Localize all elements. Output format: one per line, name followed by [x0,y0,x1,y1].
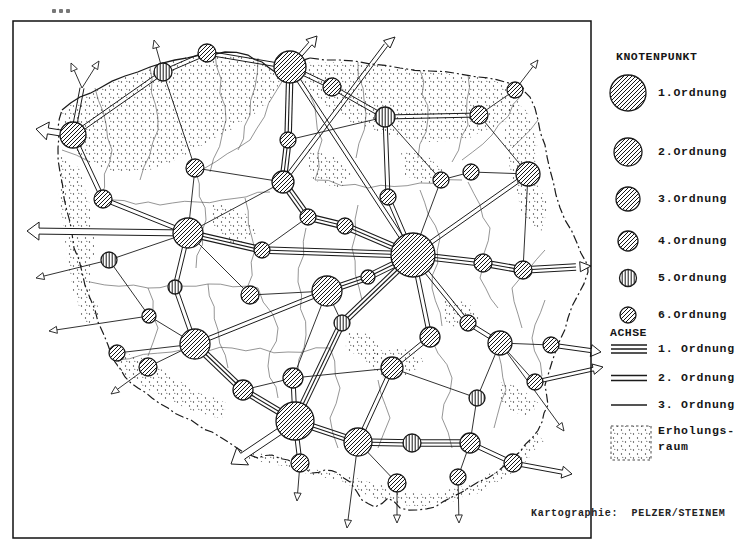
axis-order-3 [392,368,477,398]
thin-arrow-head [49,326,57,333]
legend-recreation-symbol [611,426,651,460]
poland-network-map [0,0,750,552]
node-lodz [312,276,342,306]
thin-arrow-head [71,63,77,72]
legend-node-symbol-1 [610,75,646,111]
node-konin [254,242,270,258]
node-piotrkow [334,315,350,331]
node-zamosc [527,374,543,390]
node-wroclaw [180,329,210,359]
node-biala-podlaska [514,261,532,279]
thin-arrow-shaft [57,316,149,330]
node-bialystok [516,162,540,186]
node-krosno [450,469,466,485]
node-suwalki [507,82,523,98]
legend-axes-heading: ACHSE [610,326,647,339]
thin-arrow-head [111,387,120,395]
scanned-map-page: { "page": { "caption": "Kartographie: PE… [0,0,750,552]
legend-axis-order-label-2: 2. Ordnung [658,371,735,384]
legend-node-symbol-5 [620,270,637,287]
node-kalisz [241,286,259,304]
recreation-area [300,62,521,142]
node-slupsk [198,44,216,62]
node-skierniewice [361,270,375,284]
node-radom [420,327,440,347]
thin-arrow-head [455,515,462,523]
cartography-credit: Kartographie: PELZER/STEINEM [531,508,725,519]
node-nowy-sacz [388,474,406,492]
legend-node-symbol-4 [618,231,638,251]
node-lomza [463,164,479,180]
node-katowice [276,402,314,440]
legend-node-order-label-2: 2.Ordnung [658,145,727,158]
node-siedlce [474,254,492,272]
node-elblag [323,78,341,96]
thin-arrow-head [294,493,301,501]
node-olsztyn [375,107,395,127]
open-arrow [27,222,188,240]
node-warschau [391,233,435,277]
legend-recreation-label-line2: raum [658,440,689,453]
node-gdansk [274,51,306,83]
thin-arrow-head [153,40,160,49]
voivodeship-boundary [432,340,452,448]
thin-arrow-head [345,520,352,528]
legend-node-order-label-3: 3.Ordnung [658,192,727,205]
node-opole [233,380,253,400]
node-elk [470,106,488,124]
node-glogow [142,309,156,323]
node-grudziadz [280,132,296,148]
node-koszalin [154,63,172,81]
node-leszno [168,280,182,294]
node-walbrzych [139,358,157,376]
legend-axis-order-label-3: 3. Ordnung [658,398,735,411]
legend-node-order-label-6: 6.Ordnung [658,308,727,321]
node-ostroleka [433,172,449,188]
node-zielona-gora [101,252,117,268]
legend-node-order-label-5: 5.Ordnung [658,271,727,284]
node-bydgoszcz [272,171,294,193]
node-chelm [543,337,559,353]
voivodeship-boundary [196,172,206,268]
legend-axis-order-label-1: 1. Ordnung [658,342,735,355]
axis-order-3 [195,168,283,182]
legend-node-symbol-2 [614,138,642,166]
legend-recreation-label-line1: Erholungs- [658,424,735,437]
node-stalowa-wola [469,390,485,406]
thin-arrow-shaft [74,70,82,88]
recreation-area [246,430,544,506]
axis-arrow-head [580,262,591,272]
node-plock [337,218,353,234]
voivodeship-boundary [258,288,278,398]
thin-arrow-head [557,423,565,432]
axis-order-2 [196,293,328,346]
legend-node-order-label-1: 1.Ordnung [658,86,727,99]
thin-arrow-head [92,61,99,70]
node-lublin [488,331,512,355]
node-wloclawek [300,209,316,225]
legend-node-order-label-4: 4.Ordnung [658,234,727,247]
axis-order-3 [109,260,149,316]
thin-arrow-head [36,273,45,280]
voivodeship-boundary [532,300,545,376]
node-pulawy [460,315,476,331]
legend-node-symbol-6 [620,307,636,323]
node-kielce [381,357,403,379]
thin-arrow-head [530,60,538,69]
node-pila [186,159,204,177]
open-arrow [535,364,603,384]
node-poznan [173,218,203,248]
node-legnica [109,345,125,361]
node-przemysl [504,454,522,472]
node-rzeszow [460,433,480,453]
node-ciechanow [380,189,396,205]
legend-symbols-layer [610,75,651,460]
thin-arrow-head [394,515,401,523]
axis-arrow-head [384,37,396,48]
recreation-area [58,155,100,326]
voivodeship-boundary [512,250,545,328]
node-tarnow [403,434,421,452]
recreation-area [308,148,352,190]
node-szczecin [60,122,86,148]
node-krakow [344,428,372,456]
